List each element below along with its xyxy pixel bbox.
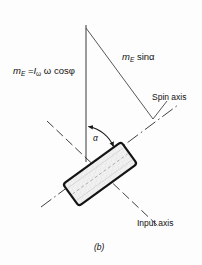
component-m-symbol: m [122,51,130,62]
formula-cos: cos [54,65,69,76]
component-alpha: α [149,51,155,62]
formula-m-symbol: m [13,65,21,76]
formula-omega: ω [44,65,51,76]
rotor-body [63,142,137,206]
earth-rate-moment-formula: mE =Iω ω cosφ [13,66,75,77]
input-axis-label: Input axis [137,219,173,228]
spin-axis-leader-line [153,101,167,119]
formula-m-subscript: E [21,70,25,77]
figure-caption: (b) [94,243,104,252]
formula-I-subscript: ω [36,70,41,77]
component-hypotenuse-line [86,28,153,119]
angle-alpha-label: α [93,134,98,143]
gyroscope-vector-diagram: mE =Iω ω cosφ mE sinα Spin axis Input ax… [0,0,202,265]
component-m-subscript: E [130,56,134,63]
moment-component-label: mE sinα [122,52,155,63]
component-sin: sin [137,51,149,62]
spin-axis-label: Spin axis [152,93,187,102]
formula-phi: φ [69,65,75,76]
